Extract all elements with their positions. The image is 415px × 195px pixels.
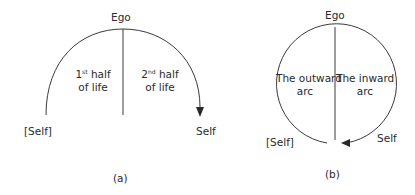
diagram-a-first-half-line2: of life bbox=[65, 81, 121, 94]
diagram-a-left-self-label: [Self] bbox=[24, 125, 52, 138]
diagram-b-right-self-label: Self bbox=[377, 132, 397, 145]
diagram-b-inward-line1: The inward bbox=[336, 72, 394, 85]
diagram-b-arrowhead-icon bbox=[341, 139, 350, 147]
diagram-b-outward-line1: The outward bbox=[276, 72, 334, 85]
diagram-b-inward-line2: arc bbox=[336, 85, 394, 98]
diagram-b-outward-line2: arc bbox=[276, 85, 334, 98]
diagram-a-caption: (a) bbox=[113, 172, 128, 185]
diagram-a-first-half-line1: 1st half bbox=[65, 68, 121, 81]
diagram-b-inward-arc-label: The inward arc bbox=[336, 72, 394, 98]
diagram-b-ego-label: Ego bbox=[325, 9, 345, 22]
diagram-b-caption: (b) bbox=[325, 168, 340, 181]
diagram-a-right-self-label: Self bbox=[196, 125, 216, 138]
diagram-a-second-half-label: 2nd half of life bbox=[131, 68, 189, 94]
diagram-a-first-half-label: 1st half of life bbox=[65, 68, 121, 94]
diagram-a-second-half-line2: of life bbox=[131, 81, 189, 94]
diagram-b-outward-arc-label: The outward arc bbox=[276, 72, 334, 98]
diagram-b-left-self-label: [Self] bbox=[266, 136, 294, 149]
diagram-a-second-half-line1: 2nd half bbox=[131, 68, 189, 81]
diagram-a-ego-label: Ego bbox=[111, 11, 131, 24]
diagram-a-arrowhead-icon bbox=[196, 107, 204, 117]
